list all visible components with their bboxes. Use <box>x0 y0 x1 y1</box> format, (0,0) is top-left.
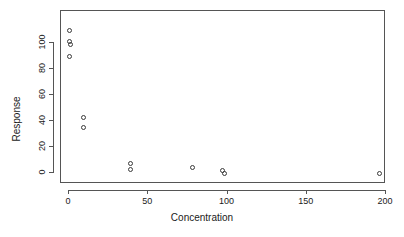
data-point <box>377 171 382 176</box>
data-point <box>68 42 73 47</box>
data-point <box>67 54 72 59</box>
x-tick-label: 0 <box>53 196 83 206</box>
data-point <box>220 168 225 173</box>
y-tick-label-text: 100 <box>37 34 47 49</box>
y-axis-line <box>53 42 54 173</box>
y-tick-label-text: 40 <box>37 115 47 125</box>
y-tick-label-text: 20 <box>37 141 47 151</box>
x-tick-mark <box>227 190 228 194</box>
data-point <box>81 115 86 120</box>
y-axis-title-text: Response <box>11 96 23 141</box>
x-tick-mark <box>147 190 148 194</box>
x-tick-mark <box>306 190 307 194</box>
y-tick-label: 100 <box>42 42 52 57</box>
plot-panel <box>60 10 385 183</box>
data-point <box>128 161 133 166</box>
data-point <box>67 39 72 44</box>
data-points-layer <box>61 11 384 182</box>
y-tick-label-text: 80 <box>37 63 47 73</box>
y-tick-label: 80 <box>42 68 52 78</box>
x-tick-mark <box>385 190 386 194</box>
x-tick-label: 150 <box>291 196 321 206</box>
x-tick-label: 100 <box>212 196 242 206</box>
data-point <box>67 28 72 33</box>
data-point <box>222 171 227 176</box>
scatter-plot-figure: 050100150200 Concentration 020406080100 … <box>0 0 404 237</box>
y-tick-label: 40 <box>42 120 52 130</box>
data-point <box>190 165 195 170</box>
x-tick-label: 200 <box>370 196 400 206</box>
data-point <box>81 125 86 130</box>
y-tick-label: 0 <box>42 172 52 177</box>
y-tick-label: 20 <box>42 146 52 156</box>
data-point <box>128 167 133 172</box>
y-tick-label-text: 60 <box>37 89 47 99</box>
y-tick-label-text: 0 <box>37 169 47 174</box>
y-tick-label: 60 <box>42 94 52 104</box>
x-tick-label: 50 <box>132 196 162 206</box>
x-axis-title: Concentration <box>0 212 404 224</box>
y-axis-title: Response <box>10 0 24 237</box>
x-tick-mark <box>68 190 69 194</box>
